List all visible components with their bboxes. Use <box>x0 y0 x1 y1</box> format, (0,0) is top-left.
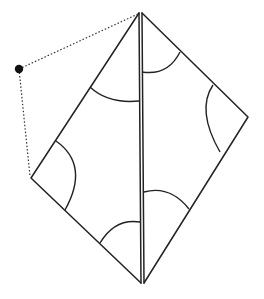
fold-line-right <box>142 13 144 283</box>
left-triangle-edges <box>31 13 141 283</box>
fold-line-left <box>139 13 141 283</box>
top-left-angle-arc <box>90 87 139 101</box>
bottom-right-angle-arc <box>144 190 189 209</box>
external-point <box>15 65 23 73</box>
dotted-line-to-left-vertex <box>19 69 30 176</box>
right-vertex-angle-arc <box>206 85 220 152</box>
top-right-angle-arc <box>142 52 180 73</box>
bottom-left-angle-arc <box>100 221 140 243</box>
left-vertex-angle-arc <box>56 141 76 210</box>
right-triangle-edges <box>142 13 248 283</box>
kite-diagram <box>0 0 264 299</box>
